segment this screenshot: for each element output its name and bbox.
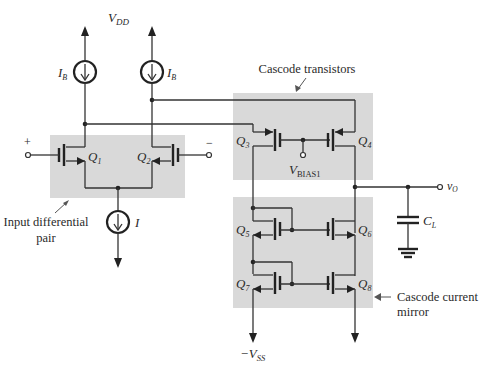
bias-current-source-right — [141, 61, 163, 83]
output-label: vO — [447, 179, 458, 194]
load-capacitor — [397, 187, 419, 248]
input-plus-label: + — [24, 135, 31, 149]
input-pair-label-line2: pair — [36, 231, 56, 245]
vss-arrow-right — [351, 333, 359, 343]
vbias-terminal[interactable] — [301, 153, 306, 158]
ib-left-label: IB — [57, 65, 67, 82]
ib-right-label: IB — [166, 65, 176, 82]
vss-label: −VSS — [240, 346, 266, 363]
tail-current-source — [107, 211, 129, 233]
tail-arrow-down — [114, 258, 122, 268]
circuit-diagram: VDD IB IB + Q1 − Q — [0, 0, 491, 369]
cascode-mirror-box — [233, 197, 373, 308]
cascode-transistors-label: Cascode transistors — [259, 62, 356, 76]
cascode-mirror-label-line2: mirror — [397, 305, 430, 319]
vdd-arrow-right — [148, 26, 156, 60]
vdd-label: VDD — [108, 10, 129, 27]
output-terminal[interactable] — [438, 185, 443, 190]
bias-current-source-left — [74, 61, 96, 83]
cascode-transistors-box — [233, 93, 373, 180]
input-pair-label-line1: Input differential — [4, 215, 89, 229]
tail-current-label: I — [134, 215, 140, 230]
cascode-mirror-label-line1: Cascode current — [397, 290, 478, 304]
input-plus-terminal[interactable] — [26, 153, 31, 158]
vss-arrow-left — [249, 333, 257, 343]
ground-icon — [398, 249, 418, 257]
input-minus-terminal[interactable] — [207, 153, 212, 158]
vdd-arrow-left — [81, 26, 89, 60]
cl-label: CL — [423, 213, 437, 230]
input-minus-label: − — [206, 136, 213, 150]
